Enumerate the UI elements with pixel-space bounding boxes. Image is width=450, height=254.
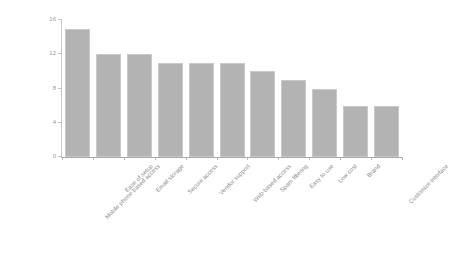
x-axis-line [61, 157, 402, 158]
y-tick-label: 4 [40, 118, 56, 126]
x-axis-label: Low cost [337, 163, 359, 185]
x-axis-label: Easy to use [308, 163, 335, 190]
x-axis-label: Brand [365, 163, 381, 179]
x-axis-label: Customize interface [407, 163, 449, 205]
x-tick-mark [155, 157, 156, 160]
x-tick-mark [340, 157, 341, 160]
x-tick-mark [247, 157, 248, 160]
x-axis-label: Secure access [187, 163, 220, 196]
bar-series [62, 20, 402, 157]
bar [189, 63, 214, 157]
bar [158, 63, 183, 157]
x-axis-label: Spam filtering [279, 163, 310, 194]
bar [65, 29, 90, 157]
x-axis-label: Vendor support [218, 163, 252, 197]
x-axis-label: Web-based access [252, 163, 293, 204]
x-tick-mark [93, 157, 94, 160]
y-tick-label: 12 [40, 49, 56, 57]
bar [250, 71, 275, 157]
y-tick-label: 0 [40, 152, 56, 160]
y-tick-label: 8 [40, 84, 56, 92]
x-tick-mark [371, 157, 372, 160]
plot-area: 0481216 [62, 20, 402, 157]
x-tick-mark [124, 157, 125, 160]
bar [127, 54, 152, 157]
bar [312, 89, 337, 158]
x-tick-mark [278, 157, 279, 160]
y-tick-label: 16 [40, 15, 56, 23]
x-axis-label: Email storage [155, 163, 186, 194]
x-tick-mark [402, 157, 403, 160]
bar [96, 54, 121, 157]
bar [220, 63, 245, 157]
x-tick-mark [309, 157, 310, 160]
x-tick-mark [217, 157, 218, 160]
x-axis-label: Mobile phone-based access [104, 163, 162, 221]
bar [281, 80, 306, 157]
bar [343, 106, 368, 157]
x-tick-mark [62, 157, 63, 160]
x-tick-mark [186, 157, 187, 160]
x-axis-label: Ease of setup [124, 163, 155, 194]
bar [374, 106, 399, 157]
